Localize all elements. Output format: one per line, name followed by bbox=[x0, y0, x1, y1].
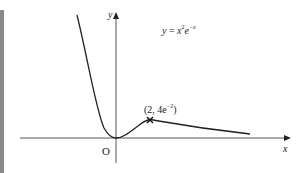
equation-exp-x: 2 bbox=[182, 24, 185, 30]
equation-label: y = x2e−x bbox=[162, 25, 196, 36]
point-label: (2, 4e−2) bbox=[144, 104, 177, 115]
equation-base-x: x bbox=[177, 25, 181, 36]
equation-exp-e: −x bbox=[189, 24, 196, 30]
y-axis-label: y bbox=[108, 9, 112, 20]
x-axis-arrow-icon bbox=[284, 135, 291, 141]
point-label-open: (2, 4e bbox=[144, 104, 167, 115]
origin-label: O bbox=[102, 145, 110, 157]
point-label-close: ) bbox=[173, 104, 176, 115]
equation-equals: = bbox=[166, 25, 177, 36]
point-label-exp: −2 bbox=[167, 103, 173, 109]
x-axis-label: x bbox=[283, 143, 287, 154]
graph-canvas bbox=[0, 0, 299, 173]
y-axis-arrow-icon bbox=[113, 12, 119, 19]
